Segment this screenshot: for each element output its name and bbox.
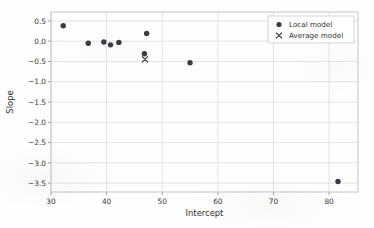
plot-canvas: 0.50.0−0.5−1.0−1.5−2.0−2.5−3.0−3.5 30405… [0, 0, 374, 228]
tick-label-y: −1.0 [28, 77, 46, 86]
tick-label-x: 40 [102, 197, 112, 206]
tick-label-x: 70 [269, 197, 279, 206]
tick-label-y: −2.5 [28, 138, 46, 147]
tick-label-x: 30 [46, 197, 56, 206]
tick-label-y: −0.5 [28, 57, 46, 66]
tick-label-y: 0.0 [34, 37, 46, 46]
tick-label-y: −3.0 [28, 159, 46, 168]
x-axis-title: Intercept [186, 208, 225, 218]
legend-label: Local model [289, 20, 332, 29]
tick-label-x: 50 [158, 197, 168, 206]
x-tick-labels: 304050607080 [46, 197, 334, 206]
scatter-plot-figure: 0.50.0−0.5−1.0−1.5−2.0−2.5−3.0−3.5 30405… [0, 0, 374, 228]
data-point-circle [142, 51, 147, 56]
data-point-circle [108, 42, 113, 47]
data-point-circle [61, 23, 66, 28]
tick-label-x: 80 [324, 197, 334, 206]
y-tick-labels: 0.50.0−0.5−1.0−1.5−2.0−2.5−3.0−3.5 [28, 17, 46, 188]
tick-label-y: 0.5 [34, 17, 46, 26]
data-point-circle [335, 179, 340, 184]
data-point-circle [101, 39, 106, 44]
y-gridlines [51, 21, 358, 183]
tick-label-y: −3.5 [28, 179, 46, 188]
data-point-circle [86, 41, 91, 46]
y-axis-title: Slope [5, 90, 15, 113]
data-point-circle [116, 40, 121, 45]
chart-legend: Local modelAverage model [268, 16, 354, 43]
data-point-circle [187, 60, 192, 65]
x-tickmarks [51, 192, 329, 195]
tick-label-x: 60 [213, 197, 223, 206]
series-local-model [61, 23, 341, 184]
tick-label-y: −2.0 [28, 118, 46, 127]
tick-label-y: −1.5 [28, 98, 46, 107]
y-tickmarks [48, 21, 51, 183]
data-point-circle [144, 31, 149, 36]
legend-label: Average model [289, 31, 343, 40]
legend-marker-circle [276, 22, 281, 27]
data-series-layer [61, 23, 341, 184]
